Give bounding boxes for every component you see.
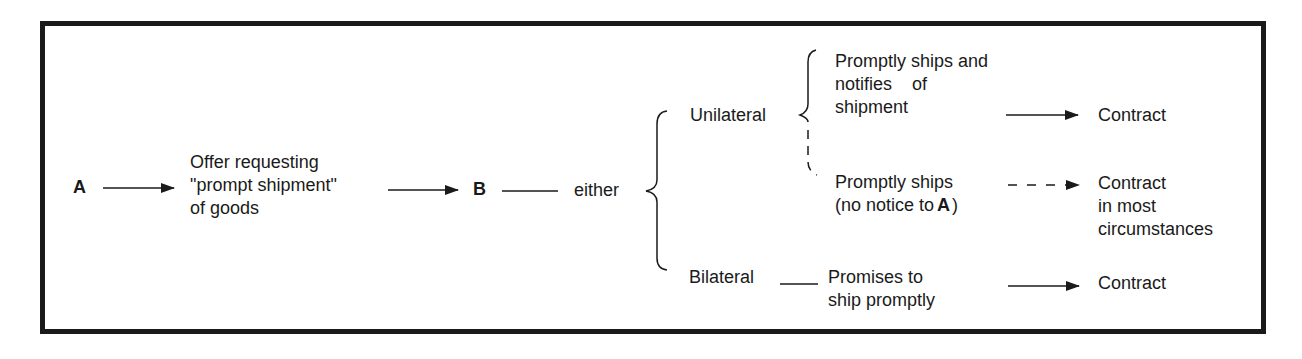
- node-result-2: Contract in most circumstances: [1098, 172, 1213, 241]
- node-uni-option-1: Promptly ships and notifies of shipment: [835, 50, 988, 119]
- result-2-line-2: in most: [1098, 195, 1213, 218]
- node-unilateral: Unilateral: [690, 104, 766, 127]
- uni-option-2-line-1: Promptly ships: [835, 171, 958, 194]
- brace-unilateral-icon: [800, 50, 816, 122]
- uni-option-2-party: A: [937, 195, 950, 215]
- node-result-1: Contract: [1098, 104, 1166, 127]
- uni-option-1-line-3: shipment: [835, 96, 988, 119]
- bi-option-line-2: ship promptly: [828, 289, 935, 312]
- offer-line-1: Offer requesting: [190, 151, 337, 174]
- uni-option-2-suffix: ): [952, 195, 958, 215]
- uni-option-2-line-2: (no notice toA): [835, 194, 958, 217]
- uni-option-2-prefix: (no notice to: [835, 195, 934, 215]
- uni-option-1-line-1: Promptly ships and: [835, 50, 988, 73]
- node-bi-option: Promises to ship promptly: [828, 266, 935, 312]
- bi-option-line-1: Promises to: [828, 266, 935, 289]
- offer-line-2: "prompt shipment": [190, 174, 337, 197]
- node-b: B: [473, 178, 486, 201]
- node-bilateral: Bilateral: [689, 266, 754, 289]
- brace-unilateral-dashed: [808, 130, 817, 175]
- node-result-3: Contract: [1098, 272, 1166, 295]
- result-2-line-1: Contract: [1098, 172, 1213, 195]
- node-uni-option-2: Promptly ships (no notice toA): [835, 171, 958, 217]
- offer-line-3: of goods: [190, 197, 337, 220]
- node-offer: Offer requesting "prompt shipment" of go…: [190, 151, 337, 220]
- result-2-line-3: circumstances: [1098, 218, 1213, 241]
- node-either: either: [574, 179, 619, 202]
- brace-either-icon: [646, 111, 667, 270]
- node-a: A: [73, 176, 86, 199]
- uni-option-1-line-2: notifies of: [835, 73, 988, 96]
